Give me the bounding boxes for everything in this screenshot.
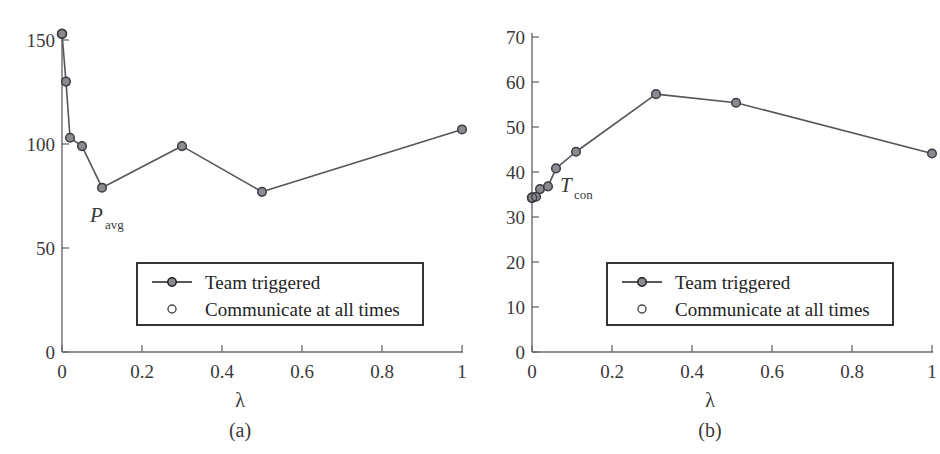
legend-label-communicate-a: Communicate at all times [205, 299, 400, 320]
x-ticklabel-b-04: 0.4 [680, 361, 704, 382]
data-point [572, 147, 581, 156]
data-point [732, 98, 741, 107]
x-ticklabel-b-06: 0.6 [760, 361, 784, 382]
panel-caption-a: (a) [229, 419, 251, 442]
legend-sample-marker-team-a [168, 278, 176, 286]
y-ticklabel-a-150: 150 [27, 30, 56, 51]
y-ticklabel-a-0: 0 [46, 342, 56, 363]
x-ticklabel-a-0: 0 [57, 361, 67, 382]
y-ticklabel-a-50: 50 [36, 238, 55, 259]
data-point [652, 90, 661, 99]
legend-label-team-triggered-a: Team triggered [205, 272, 321, 293]
data-point [552, 164, 561, 173]
panel-caption-b: (b) [698, 419, 721, 442]
x-axis-label-b: λ [705, 389, 715, 411]
data-point [62, 77, 71, 86]
y-ticklabel-b-20: 20 [506, 252, 525, 273]
curve-label-a-sub: avg [105, 217, 124, 232]
legend-label-team-triggered-b: Team triggered [675, 272, 791, 293]
series-line-team-triggered-a [62, 34, 462, 192]
data-point [258, 188, 267, 197]
x-ticklabel-a-08: 0.8 [370, 361, 394, 382]
legend-b: Team triggered Communicate at all times [607, 263, 893, 325]
series-markers-team-triggered-a [58, 29, 467, 196]
chart-a-canvas: 150 100 50 0 0 0.2 0.4 0.6 0.8 1 P avg [0, 0, 470, 454]
x-axis-label-a: λ [235, 389, 245, 411]
y-ticklabel-b-0: 0 [516, 342, 526, 363]
figure-container: 150 100 50 0 0 0.2 0.4 0.6 0.8 1 P avg [0, 0, 940, 454]
x-ticklabel-a-02: 0.2 [130, 361, 154, 382]
x-ticklabel-b-08: 0.8 [840, 361, 864, 382]
x-ticklabel-a-04: 0.4 [210, 361, 234, 382]
data-point [178, 142, 187, 151]
y-ticklabel-b-30: 30 [506, 207, 525, 228]
curve-label-b-main: T [560, 173, 573, 197]
data-point [78, 142, 87, 151]
legend-sample-marker-team-b [638, 278, 646, 286]
x-ticklabel-b-02: 0.2 [600, 361, 624, 382]
y-ticklabel-b-70: 70 [506, 27, 525, 48]
y-ticklabel-b-60: 60 [506, 72, 525, 93]
y-ticklabel-a-100: 100 [27, 134, 56, 155]
data-point [66, 133, 75, 142]
data-point [928, 149, 937, 158]
x-ticklabel-a-06: 0.6 [290, 361, 314, 382]
curve-label-b: T con [560, 173, 593, 202]
y-ticklabel-b-10: 10 [506, 297, 525, 318]
curve-label-b-sub: con [574, 187, 593, 202]
series-line-team-triggered-b [532, 94, 932, 197]
x-ticklabel-b-0: 0 [527, 361, 537, 382]
x-ticklabel-a-1: 1 [457, 361, 467, 382]
data-point [98, 183, 107, 192]
panel-a: 150 100 50 0 0 0.2 0.4 0.6 0.8 1 P avg [0, 0, 470, 454]
y-ticklabel-b-50: 50 [506, 117, 525, 138]
y-ticklabel-b-40: 40 [506, 162, 525, 183]
series-markers-team-triggered-b [528, 90, 937, 202]
curve-label-a: P avg [89, 203, 124, 232]
curve-label-a-main: P [89, 203, 103, 227]
legend-sample-marker-communicate-a [168, 305, 176, 313]
legend-a: Team triggered Communicate at all times [137, 263, 423, 325]
legend-sample-marker-communicate-b [638, 305, 646, 313]
x-ticklabel-b-1: 1 [927, 361, 937, 382]
chart-b-canvas: 70 60 50 40 30 20 10 0 0 0.2 0.4 0.6 0.8… [470, 0, 940, 454]
panel-b: 70 60 50 40 30 20 10 0 0 0.2 0.4 0.6 0.8… [470, 0, 940, 454]
legend-label-communicate-b: Communicate at all times [675, 299, 870, 320]
data-point [544, 182, 553, 191]
data-point [458, 125, 467, 134]
